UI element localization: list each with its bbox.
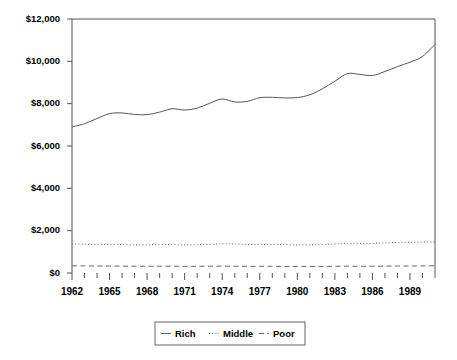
x-axis-tick-label: 1968 <box>136 286 159 297</box>
y-axis: $0$2,000$4,000$6,000$8,000$10,000$12,000 <box>26 13 72 278</box>
data-series-group <box>72 44 435 266</box>
y-axis-tick-label: $4,000 <box>31 182 60 193</box>
x-axis-tick-label: 1980 <box>286 286 309 297</box>
x-axis-tick-label: 1983 <box>324 286 347 297</box>
chart-container: $0$2,000$4,000$6,000$8,000$10,000$12,000… <box>0 0 457 360</box>
x-axis-tick-label: 1971 <box>174 286 197 297</box>
x-axis-tick-label: 1989 <box>399 286 422 297</box>
x-axis-tick-label: 1986 <box>361 286 384 297</box>
x-axis: 1962196519681971197419771980198319861989 <box>61 273 435 297</box>
y-axis-tick-label: $8,000 <box>31 97 60 108</box>
legend-label-middle: Middle <box>223 328 253 339</box>
legend-label-rich: Rich <box>175 328 196 339</box>
y-axis-tick-label: $10,000 <box>26 55 60 66</box>
y-axis-tick-label: $12,000 <box>26 13 60 24</box>
y-axis-tick-label: $6,000 <box>31 140 60 151</box>
series-line-rich <box>72 44 435 127</box>
chart-legend: RichMiddlePoor <box>155 322 305 345</box>
x-axis-tick-label: 1965 <box>98 286 121 297</box>
x-axis-tick-label: 1962 <box>61 286 84 297</box>
plot-frame <box>72 19 435 273</box>
x-axis-tick-label: 1977 <box>249 286 272 297</box>
y-axis-tick-label: $0 <box>49 267 60 278</box>
line-chart: $0$2,000$4,000$6,000$8,000$10,000$12,000… <box>0 0 457 360</box>
legend-label-poor: Poor <box>273 328 295 339</box>
x-axis-tick-label: 1974 <box>211 286 234 297</box>
y-axis-tick-label: $2,000 <box>31 224 60 235</box>
series-line-middle <box>72 242 435 245</box>
series-line-poor <box>72 266 435 267</box>
